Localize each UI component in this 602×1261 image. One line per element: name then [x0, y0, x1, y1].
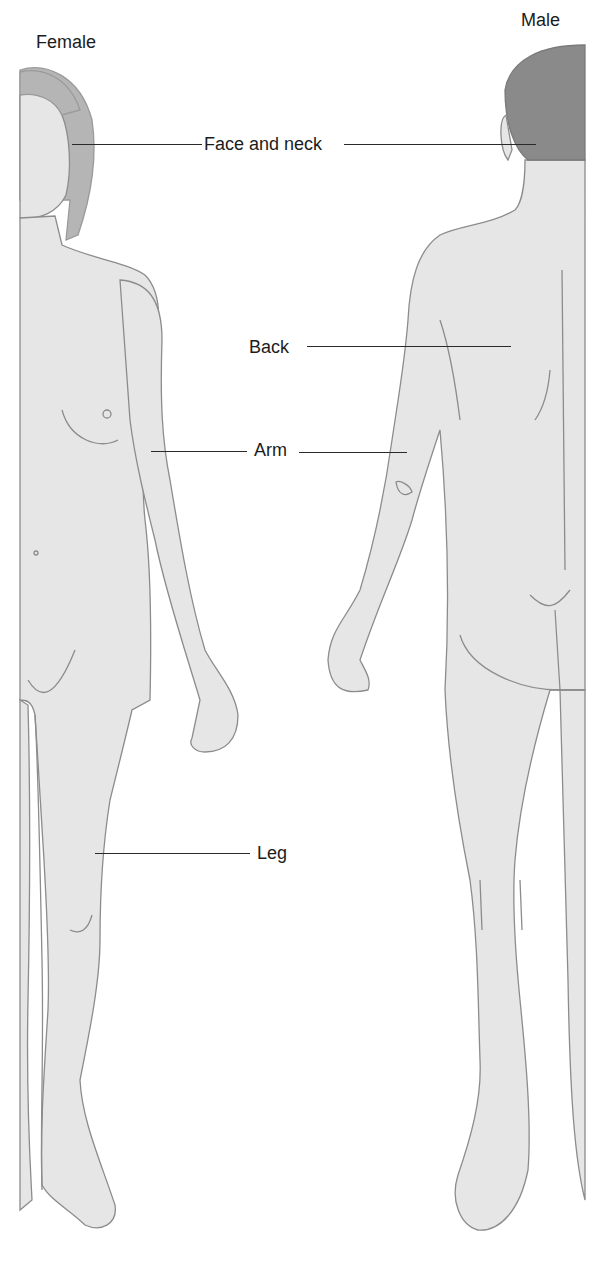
- leader-line-face-female: [72, 144, 202, 145]
- male-figure: [328, 45, 585, 1230]
- figures-illustration: [0, 0, 602, 1261]
- label-arm: Arm: [254, 440, 287, 460]
- label-leg: Leg: [257, 843, 287, 863]
- male-torso: [328, 160, 585, 1230]
- body-map-diagram: Female Male Face and neck Back Arm Leg: [0, 0, 602, 1261]
- leader-line-back: [307, 346, 511, 347]
- female-title: Female: [36, 32, 96, 52]
- leader-line-arm-female: [151, 451, 247, 452]
- label-back: Back: [249, 337, 289, 357]
- male-hair: [505, 45, 585, 160]
- leader-line-leg: [95, 853, 250, 854]
- leader-line-arm-male: [299, 452, 407, 453]
- female-figure: [20, 68, 238, 1228]
- male-title: Male: [521, 10, 560, 30]
- label-face-and-neck: Face and neck: [204, 134, 322, 154]
- leader-line-face-male: [344, 144, 536, 145]
